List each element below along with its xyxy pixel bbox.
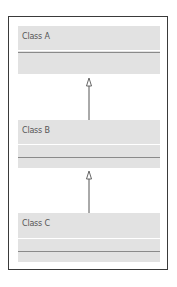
- hollow-triangle-icon: [87, 78, 92, 86]
- generalization-arrow-b-to-a[interactable]: [87, 78, 92, 120]
- generalization-arrow-c-to-b[interactable]: [87, 171, 92, 213]
- hollow-triangle-icon: [87, 171, 92, 179]
- inheritance-arrows: [0, 0, 177, 287]
